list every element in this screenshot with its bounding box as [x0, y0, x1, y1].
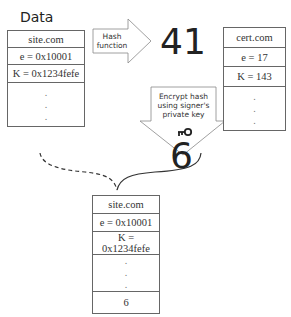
- cert-record-table: cert.com e = 17 K = 143 . . .: [223, 27, 286, 131]
- encrypt-arrow-line1: Encrypt hash: [151, 92, 216, 101]
- source-domain-cell: site.com: [8, 31, 85, 48]
- source-exponent-cell: e = 0x10001: [8, 48, 85, 65]
- source-ellipsis-cell: . . .: [8, 83, 85, 127]
- signed-ellipsis-cell: . . .: [93, 255, 160, 292]
- hash-value: 41: [160, 24, 206, 60]
- encrypt-arrow-line3: private key: [151, 110, 216, 119]
- source-record-table: site.com e = 0x10001 K = 0x1234fefe . . …: [7, 30, 85, 127]
- signed-exponent-cell: e = 0x10001: [93, 214, 160, 232]
- dot: .: [224, 103, 285, 115]
- signed-domain-cell: site.com: [93, 196, 160, 214]
- encrypt-arrow-line2: using signer's: [151, 101, 216, 110]
- signed-signature-cell: 6: [93, 292, 160, 314]
- signed-record-table: site.com e = 0x10001 K = 0x1234fefe . . …: [92, 195, 160, 314]
- dot: .: [8, 87, 84, 99]
- dot: .: [8, 111, 84, 123]
- cert-key-cell: K = 143: [224, 67, 286, 87]
- source-key-cell: K = 0x1234fefe: [8, 65, 85, 83]
- cert-ellipsis-cell: . . .: [224, 87, 286, 131]
- dot: .: [224, 91, 285, 103]
- hash-arrow-label: Hash function: [95, 32, 129, 50]
- encrypt-arrow-label: Encrypt hash using signer's private key: [151, 92, 216, 119]
- dot: .: [93, 279, 159, 291]
- hash-arrow-line2: function: [95, 41, 129, 50]
- dot: .: [224, 115, 285, 127]
- dot: .: [8, 99, 84, 111]
- hash-arrow-line1: Hash: [95, 32, 129, 41]
- cert-exponent-cell: e = 17: [224, 48, 286, 67]
- dot: .: [93, 255, 159, 267]
- data-label: Data: [20, 9, 53, 25]
- signed-key-cell: K = 0x1234fefe: [93, 232, 160, 255]
- dashed-brace-left: [40, 153, 117, 190]
- signature-value: 6: [170, 138, 193, 174]
- cert-domain-cell: cert.com: [224, 28, 286, 48]
- dot: .: [93, 267, 159, 279]
